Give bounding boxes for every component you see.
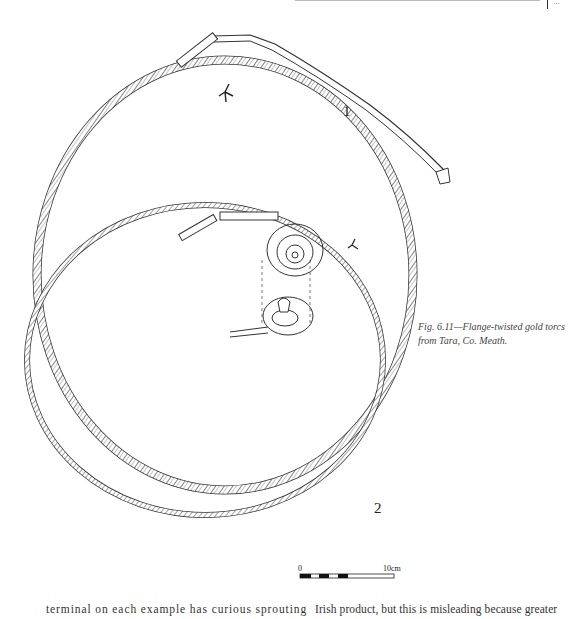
torc-1-label: 1 [343,103,351,120]
scale-end-label: 10cm [383,564,401,573]
torc-illustration [0,0,575,619]
torc-1 [37,33,450,490]
scale-start-label: 0 [298,564,302,573]
torc-2 [27,205,383,515]
figure-caption: Fig. 6.11—Flange-twisted gold torcs from… [418,320,575,348]
body-text-left-column: terminal on each example has curious spr… [46,603,307,615]
scale-bar [300,574,394,578]
body-text-right-column: Irish product, but this is misleading be… [315,603,557,615]
torc-2-label: 2 [374,500,382,517]
